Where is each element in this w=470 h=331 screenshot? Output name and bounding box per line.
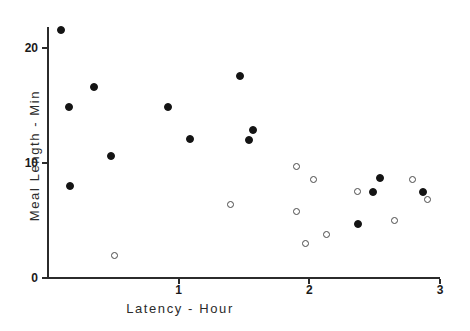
data-point-filled-7 — [236, 72, 244, 80]
data-point-filled-9 — [249, 126, 257, 134]
data-point-filled-0 — [57, 26, 65, 34]
data-point-open-6 — [302, 240, 309, 247]
data-point-open-9 — [424, 196, 431, 203]
data-point-filled-1 — [66, 182, 74, 190]
data-point-open-3 — [310, 176, 317, 183]
y-tick-20 — [42, 47, 47, 49]
x-tick-label-2: 2 — [299, 283, 319, 297]
data-point-filled-3 — [90, 83, 98, 91]
data-point-filled-10 — [354, 220, 362, 228]
data-point-open-5 — [323, 231, 330, 238]
data-point-filled-2 — [65, 103, 73, 111]
scatter-plot: 01020 123 Meal Length - Min Latency - Ho… — [0, 0, 470, 331]
y-tick-label-20: 20 — [8, 41, 38, 55]
x-axis-line — [47, 277, 440, 279]
data-point-filled-8 — [245, 136, 253, 144]
data-point-filled-13 — [419, 188, 427, 196]
data-point-open-2 — [293, 163, 300, 170]
data-point-open-7 — [354, 188, 361, 195]
data-point-open-0 — [111, 252, 118, 259]
data-point-filled-6 — [186, 135, 194, 143]
data-point-open-1 — [227, 201, 234, 208]
y-tick-0 — [42, 277, 47, 279]
y-tick-10 — [42, 162, 47, 164]
x-axis-label: Latency - Hour — [60, 301, 300, 316]
x-tick-label-1: 1 — [169, 283, 189, 297]
data-point-open-4 — [293, 208, 300, 215]
data-point-filled-12 — [376, 174, 384, 182]
x-tick-label-3: 3 — [430, 283, 450, 297]
data-point-filled-4 — [107, 152, 115, 160]
y-axis-label: Meal Length - Min — [27, 56, 42, 256]
y-axis-line — [47, 27, 49, 279]
data-point-open-10 — [391, 217, 398, 224]
data-point-filled-11 — [369, 188, 377, 196]
data-point-open-8 — [409, 176, 416, 183]
data-point-filled-5 — [164, 103, 172, 111]
y-tick-label-0: 0 — [8, 271, 38, 285]
